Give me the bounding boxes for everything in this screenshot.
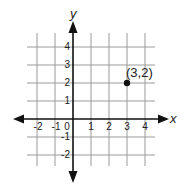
- point-label: (3,2): [126, 65, 153, 80]
- y-tick-label: -2: [61, 149, 70, 160]
- coordinate-plane: x y -2 -1 0 1 2 3 4 4 3 2 1 -1 -2 (3,2): [0, 0, 188, 188]
- data-point: [124, 80, 130, 86]
- x-axis-right-arrow-icon: [158, 115, 169, 124]
- y-axis-label: y: [69, 6, 78, 21]
- x-axis-left-arrow-icon: [13, 115, 24, 124]
- y-axis-down-arrow-icon: [69, 171, 78, 183]
- y-tick-label: 2: [64, 77, 70, 88]
- y-tick-label: 3: [64, 59, 70, 70]
- y-tick-label: -1: [61, 131, 70, 142]
- y-tick-label: 1: [64, 95, 70, 106]
- y-tick-label: 4: [64, 41, 70, 52]
- x-tick-label: 3: [124, 121, 130, 132]
- x-tick-label: 1: [88, 121, 94, 132]
- x-tick-label: -2: [34, 121, 43, 132]
- x-tick-label: 4: [142, 121, 148, 132]
- x-tick-label: 2: [106, 121, 112, 132]
- grid: [27, 33, 155, 166]
- x-axis-label: x: [169, 111, 177, 126]
- y-axis-up-arrow-icon: [69, 21, 78, 33]
- x-tick-labels: -2 -1 0 1 2 3 4: [34, 121, 149, 132]
- x-tick-label: -1: [52, 121, 61, 132]
